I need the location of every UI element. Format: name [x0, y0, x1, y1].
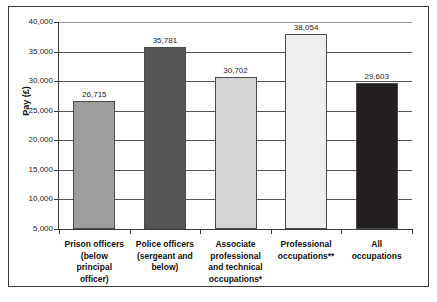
x-tick-mark [200, 229, 201, 234]
y-tick-label: 40,000 [4, 18, 53, 26]
x-tick-mark [130, 229, 131, 234]
bar-value-label: 29,603 [347, 72, 407, 81]
x-axis-label-1: Prison officers(belowprincipalofficer) [59, 239, 130, 285]
y-tick-label: 5,000 [4, 225, 53, 233]
x-axis-label-2: Police officers(sergeant andbelow) [130, 239, 201, 274]
x-axis-label-line: below) [130, 262, 201, 274]
y-tick-label: 30,000 [4, 77, 53, 85]
gridline [59, 52, 412, 53]
y-tick-label: 20,000 [4, 136, 53, 144]
bar-5 [356, 83, 398, 229]
x-axis-label-line: occupations** [271, 251, 342, 263]
x-axis-label-line: (below [59, 251, 130, 263]
x-axis-label-5: Alloccupations [341, 239, 412, 262]
x-axis-label-line: occupations* [200, 274, 271, 286]
bar-value-label: 35,781 [135, 36, 195, 45]
x-axis-label-line: and technical [200, 262, 271, 274]
gridline [59, 229, 412, 230]
y-tick-label: 25,000 [4, 107, 53, 115]
x-tick-mark [271, 229, 272, 234]
bar-value-label: 30,702 [206, 66, 266, 75]
x-tick-mark [59, 229, 60, 234]
x-axis-label-line: (sergeant and [130, 251, 201, 263]
y-tick-label: 10,000 [4, 195, 53, 203]
x-axis-label-line: Police officers [130, 239, 201, 251]
x-axis-label-line: principal [59, 262, 130, 274]
x-axis-label-line: officer) [59, 274, 130, 286]
bar-2 [144, 47, 186, 229]
x-axis-label-line: All [341, 239, 412, 251]
bar-value-label: 38,054 [276, 23, 336, 32]
y-tick-label: 15,000 [4, 166, 53, 174]
x-axis-label-line: occupations [341, 251, 412, 263]
x-axis-label-3: Associateprofessionaland technicaloccupa… [200, 239, 271, 285]
x-axis-label-4: Professionaloccupations** [271, 239, 342, 262]
chart-figure: Pay (£) 40,00035,00030,00025,00020,00015… [0, 0, 437, 302]
bar-4 [285, 34, 327, 229]
y-tick-label: 35,000 [4, 48, 53, 56]
gridline [59, 22, 412, 23]
bar-value-label: 26,715 [64, 90, 124, 99]
x-axis-label-line: professional [200, 251, 271, 263]
x-axis-label-line: Prison officers [59, 239, 130, 251]
bar-1 [73, 101, 115, 229]
x-tick-mark [412, 229, 413, 234]
bar-3 [215, 77, 257, 229]
x-axis-label-line: Associate [200, 239, 271, 251]
x-axis-label-line: Professional [271, 239, 342, 251]
x-tick-mark [341, 229, 342, 234]
